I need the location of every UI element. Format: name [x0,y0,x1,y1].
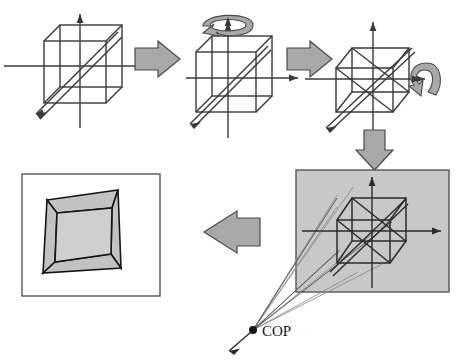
figure-canvas: COP [0,0,471,361]
projected-face-back [55,208,112,262]
panel-5-projected-image [0,0,471,361]
projected-cube [43,190,121,273]
